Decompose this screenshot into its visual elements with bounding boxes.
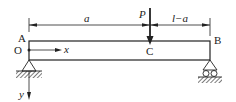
roller-wheel-left-icon xyxy=(203,71,209,77)
dimension-arrow-mid-left-icon xyxy=(142,23,150,26)
y-axis-label: y xyxy=(18,88,24,100)
point-label-a: A xyxy=(18,32,26,44)
point-label-c: C xyxy=(146,45,153,57)
y-axis-arrow-icon xyxy=(27,92,31,100)
dimension-arrow-mid-right-icon xyxy=(150,23,158,26)
dimension-label-a: a xyxy=(84,12,90,24)
load-p: P xyxy=(138,8,154,45)
dimension-label-l-minus-a: l−a xyxy=(172,12,188,24)
pin-support-triangle-icon xyxy=(22,60,36,71)
roller-support-right xyxy=(198,60,222,83)
roller-support-triangle-icon xyxy=(203,60,217,70)
dimension-arrow-left-icon xyxy=(29,23,37,26)
x-axis-arrow-icon xyxy=(55,48,62,52)
beam-diagram: a l−a P A O C B x y xyxy=(0,0,236,102)
point-label-o: O xyxy=(14,44,22,56)
ground-hatch-right xyxy=(198,77,222,83)
dimension-arrow-right-icon xyxy=(202,23,210,26)
x-axis: x xyxy=(28,43,70,55)
dimension-line: a l−a xyxy=(29,12,210,36)
roller-wheel-right-icon xyxy=(211,71,217,77)
x-axis-label: x xyxy=(63,43,69,55)
point-label-b: B xyxy=(214,34,221,46)
load-label-p: P xyxy=(138,8,146,20)
